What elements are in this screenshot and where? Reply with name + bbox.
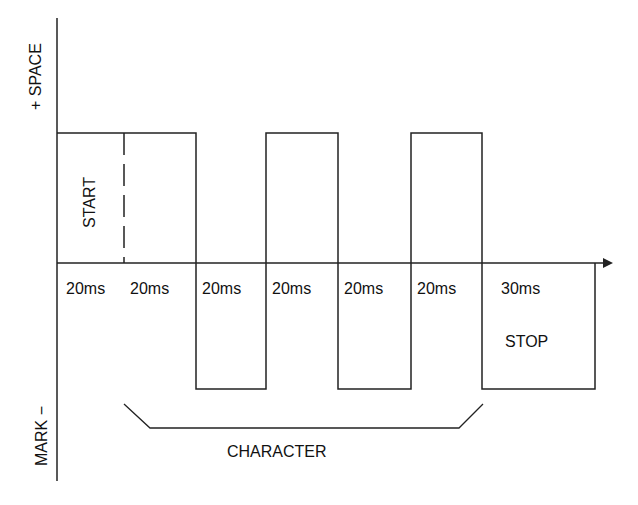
bit-duration-label: 20ms (202, 281, 241, 297)
waveform (57, 133, 595, 389)
bit-duration-label: 20ms (130, 281, 169, 297)
bit-duration-label: 20ms (344, 281, 383, 297)
bit-duration-label: 20ms (66, 281, 105, 297)
timing-diagram (0, 0, 638, 505)
mark-axis-label: MARK − (34, 406, 50, 466)
bit-duration-label: 30ms (501, 281, 540, 297)
stop-label: STOP (505, 334, 548, 350)
time-axis-arrow-icon (603, 258, 613, 268)
start-label: START (82, 177, 98, 228)
character-label: CHARACTER (227, 444, 327, 460)
space-axis-label: + SPACE (28, 43, 44, 110)
character-bracket (124, 404, 483, 428)
bit-duration-label: 20ms (272, 281, 311, 297)
bit-duration-label: 20ms (417, 281, 456, 297)
